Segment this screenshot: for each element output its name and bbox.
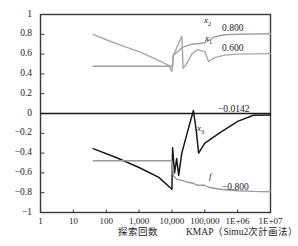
chart-figure: 10.80.60.40.20−0.2−0.4−0.6−0.8−11101001,… — [0, 0, 298, 246]
y-tick-label: −0.8 — [2, 188, 32, 198]
series-label-subscript: 2 — [208, 20, 211, 27]
method-caption: KMAP（Simu2次計画法）1 — [186, 227, 298, 237]
f-value: −0.800 — [222, 182, 249, 192]
series-label-x3: x3 — [197, 124, 204, 136]
series-label-subscript: 1 — [209, 38, 212, 45]
y-tick-label: −0.2 — [2, 128, 32, 138]
x1-value: 0.600 — [222, 43, 243, 53]
y-tick-label: −0.6 — [2, 168, 32, 178]
y-tick-label: 0 — [2, 109, 32, 119]
x-axis-title: 探索回数 — [118, 227, 158, 237]
series-label-base: f — [209, 171, 212, 181]
series-label-x2: x2 — [204, 16, 211, 28]
y-tick-label: 0.6 — [2, 49, 32, 59]
y-tick-label: 1 — [2, 10, 32, 20]
y-tick-label: 0.8 — [2, 29, 32, 39]
y-tick-label: −0.4 — [2, 148, 32, 158]
series-label-subscript: 3 — [201, 128, 204, 135]
chart-canvas — [0, 0, 298, 246]
x3-value: −0.0142 — [218, 104, 249, 114]
x-tick-label: 1E+07 — [245, 217, 297, 226]
y-tick-label: 0.4 — [2, 69, 32, 79]
x2-value: 0.800 — [222, 23, 243, 33]
series-label-x1: x1 — [205, 34, 212, 46]
y-tick-label: 0.2 — [2, 89, 32, 99]
series-label-f: f — [209, 172, 212, 181]
